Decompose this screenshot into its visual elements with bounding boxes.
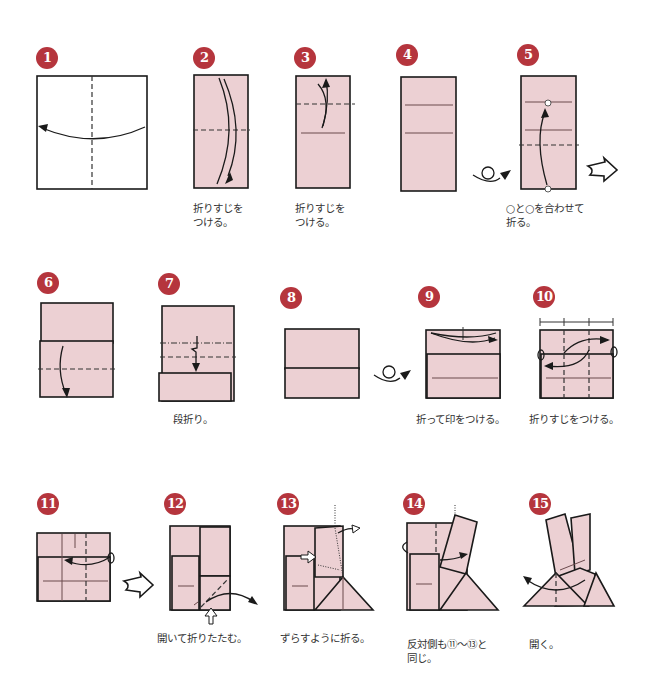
step-15-diagram xyxy=(0,0,650,680)
step-caption: 開く。 xyxy=(529,637,559,651)
